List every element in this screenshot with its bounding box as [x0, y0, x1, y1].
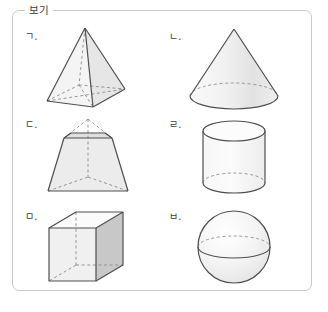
figure-truncated-pyramid: [15, 111, 165, 204]
shape-cell-sphere: ㅂ.: [159, 203, 309, 296]
shape-cell-cube: ㅁ.: [15, 203, 165, 296]
boxi-panel: 보기 ㄱ.: [12, 10, 312, 291]
shape-grid: ㄱ.: [13, 11, 311, 290]
shape-cell-square-pyramid: ㄱ.: [15, 23, 165, 116]
figure-cylinder: [159, 111, 309, 204]
shape-cell-cylinder: ㄹ.: [159, 111, 309, 204]
figure-cone: [159, 23, 309, 116]
figure-cube: [15, 203, 165, 296]
figure-square-pyramid: [15, 23, 165, 116]
shape-cell-truncated-pyramid: ㄷ.: [15, 111, 165, 204]
shape-cell-cone: ㄴ.: [159, 23, 309, 116]
figure-sphere: [159, 203, 309, 296]
page-root: 보기 ㄱ.: [0, 0, 328, 312]
